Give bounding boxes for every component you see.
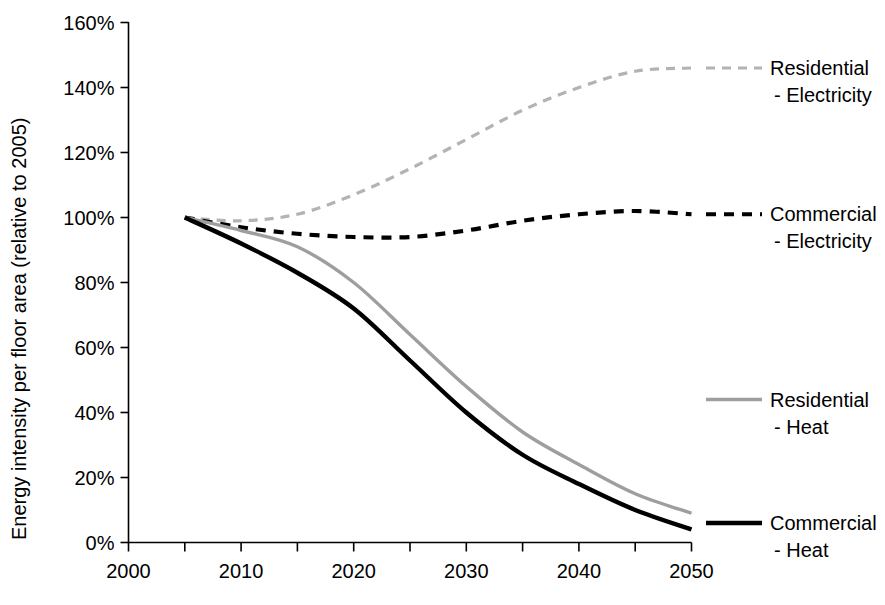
legend-label-line1: Commercial bbox=[770, 203, 877, 225]
y-tick-label: 40% bbox=[74, 402, 114, 424]
legend-label-line1: Residential bbox=[770, 57, 869, 79]
x-tick-label: 2050 bbox=[669, 560, 714, 582]
legend-item-3: Commercial- Heat bbox=[706, 512, 877, 561]
legend-label-line2: - Heat bbox=[774, 539, 829, 561]
y-tick-label: 100% bbox=[63, 207, 114, 229]
legend-label-line2: - Electricity bbox=[774, 84, 872, 106]
x-axis-ticks: 200020102020203020402050 bbox=[106, 543, 714, 582]
y-axis-ticks: 0%20%40%60%80%100%120%140%160% bbox=[63, 12, 128, 554]
y-tick-label: 160% bbox=[63, 12, 114, 34]
series-line-2 bbox=[185, 218, 692, 514]
legend-item-1: Commercial- Electricity bbox=[706, 203, 877, 252]
y-tick-label: 120% bbox=[63, 142, 114, 164]
legend-item-2: Residential- Heat bbox=[706, 389, 869, 438]
energy-intensity-line-chart: Energy intensity per floor area (relativ… bbox=[0, 0, 885, 605]
legend-item-0: Residential- Electricity bbox=[706, 57, 872, 106]
data-series-group bbox=[185, 68, 692, 530]
y-tick-label: 0% bbox=[86, 532, 115, 554]
series-line-0 bbox=[185, 68, 692, 221]
x-tick-label: 2020 bbox=[331, 560, 376, 582]
y-tick-label: 20% bbox=[74, 467, 114, 489]
legend-label-line1: Residential bbox=[770, 389, 869, 411]
y-axis-title: Energy intensity per floor area (relativ… bbox=[8, 118, 30, 540]
y-tick-label: 140% bbox=[63, 77, 114, 99]
chart-container: Energy intensity per floor area (relativ… bbox=[0, 0, 885, 605]
x-tick-label: 2030 bbox=[444, 560, 489, 582]
legend-label-line2: - Heat bbox=[774, 416, 829, 438]
x-tick-label: 2010 bbox=[219, 560, 264, 582]
chart-legend: Residential- ElectricityCommercial- Elec… bbox=[706, 57, 877, 561]
x-tick-label: 2040 bbox=[557, 560, 602, 582]
y-tick-label: 60% bbox=[74, 337, 114, 359]
x-tick-label: 2000 bbox=[106, 560, 151, 582]
legend-label-line2: - Electricity bbox=[774, 230, 872, 252]
legend-label-line1: Commercial bbox=[770, 512, 877, 534]
y-tick-label: 80% bbox=[74, 272, 114, 294]
y-axis-title-label: Energy intensity per floor area (relativ… bbox=[8, 118, 30, 540]
